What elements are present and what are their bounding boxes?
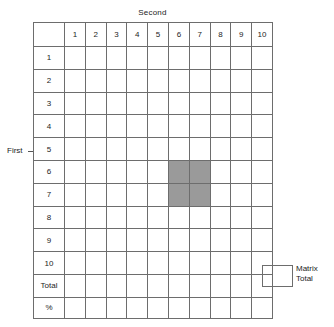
matrix-cell[interactable] xyxy=(168,69,189,92)
matrix-cell[interactable] xyxy=(148,69,169,92)
matrix-cell[interactable] xyxy=(65,297,86,318)
matrix-cell[interactable] xyxy=(210,297,231,318)
matrix-cell[interactable] xyxy=(252,206,273,229)
matrix-cell[interactable] xyxy=(252,47,273,70)
matrix-cell[interactable] xyxy=(210,160,231,183)
matrix-cell[interactable] xyxy=(168,297,189,318)
matrix-cell[interactable] xyxy=(85,160,106,183)
matrix-cell[interactable] xyxy=(127,229,148,252)
matrix-cell[interactable] xyxy=(210,69,231,92)
matrix-cell[interactable] xyxy=(210,115,231,138)
matrix-cell[interactable] xyxy=(127,183,148,206)
matrix-cell[interactable] xyxy=(252,229,273,252)
matrix-cell[interactable] xyxy=(85,47,106,70)
matrix-cell[interactable] xyxy=(231,183,252,206)
matrix-cell[interactable] xyxy=(85,297,106,318)
matrix-cell[interactable] xyxy=(231,274,252,297)
matrix-cell[interactable] xyxy=(65,160,86,183)
matrix-cell[interactable] xyxy=(148,297,169,318)
matrix-cell[interactable] xyxy=(231,69,252,92)
matrix-cell[interactable] xyxy=(231,160,252,183)
matrix-cell[interactable] xyxy=(189,252,210,275)
matrix-cell[interactable] xyxy=(85,274,106,297)
matrix-cell[interactable] xyxy=(148,160,169,183)
matrix-cell[interactable] xyxy=(65,206,86,229)
matrix-cell[interactable] xyxy=(168,115,189,138)
matrix-cell[interactable] xyxy=(65,92,86,115)
matrix-cell[interactable] xyxy=(127,274,148,297)
matrix-cell[interactable] xyxy=(189,92,210,115)
matrix-cell[interactable] xyxy=(106,229,127,252)
matrix-cell[interactable] xyxy=(231,115,252,138)
matrix-cell[interactable] xyxy=(148,138,169,161)
matrix-cell[interactable] xyxy=(106,115,127,138)
matrix-cell[interactable] xyxy=(106,92,127,115)
matrix-cell[interactable] xyxy=(168,252,189,275)
matrix-cell[interactable] xyxy=(189,138,210,161)
matrix-cell[interactable] xyxy=(231,92,252,115)
matrix-cell-shaded[interactable] xyxy=(168,160,189,183)
matrix-cell[interactable] xyxy=(106,297,127,318)
matrix-cell[interactable] xyxy=(148,274,169,297)
matrix-cell[interactable] xyxy=(65,183,86,206)
matrix-cell[interactable] xyxy=(106,206,127,229)
matrix-cell[interactable] xyxy=(127,138,148,161)
matrix-cell[interactable] xyxy=(65,69,86,92)
matrix-cell[interactable] xyxy=(252,160,273,183)
matrix-cell[interactable] xyxy=(252,69,273,92)
matrix-cell[interactable] xyxy=(231,138,252,161)
matrix-cell[interactable] xyxy=(189,206,210,229)
matrix-cell[interactable] xyxy=(148,115,169,138)
matrix-cell[interactable] xyxy=(252,297,273,318)
matrix-cell[interactable] xyxy=(252,183,273,206)
matrix-cell[interactable] xyxy=(189,47,210,70)
matrix-cell[interactable] xyxy=(127,92,148,115)
matrix-cell[interactable] xyxy=(189,274,210,297)
matrix-cell[interactable] xyxy=(85,229,106,252)
matrix-total-box[interactable] xyxy=(262,265,293,287)
matrix-cell[interactable] xyxy=(210,229,231,252)
matrix-cell-shaded[interactable] xyxy=(168,183,189,206)
matrix-cell[interactable] xyxy=(148,229,169,252)
matrix-cell[interactable] xyxy=(106,252,127,275)
matrix-cell[interactable] xyxy=(85,115,106,138)
matrix-cell[interactable] xyxy=(148,252,169,275)
matrix-cell[interactable] xyxy=(85,183,106,206)
matrix-cell[interactable] xyxy=(65,274,86,297)
matrix-cell[interactable] xyxy=(148,92,169,115)
matrix-cell[interactable] xyxy=(148,206,169,229)
matrix-cell-shaded[interactable] xyxy=(189,183,210,206)
matrix-cell[interactable] xyxy=(231,252,252,275)
matrix-cell[interactable] xyxy=(210,138,231,161)
matrix-cell[interactable] xyxy=(210,92,231,115)
matrix-cell[interactable] xyxy=(210,183,231,206)
matrix-cell[interactable] xyxy=(189,115,210,138)
matrix-cell[interactable] xyxy=(252,138,273,161)
matrix-cell[interactable] xyxy=(189,297,210,318)
matrix-cell[interactable] xyxy=(148,47,169,70)
matrix-cell[interactable] xyxy=(65,47,86,70)
matrix-cell[interactable] xyxy=(168,138,189,161)
matrix-cell[interactable] xyxy=(231,47,252,70)
matrix-cell[interactable] xyxy=(127,115,148,138)
matrix-cell[interactable] xyxy=(106,138,127,161)
matrix-cell[interactable] xyxy=(168,274,189,297)
matrix-cell[interactable] xyxy=(168,229,189,252)
matrix-cell[interactable] xyxy=(65,252,86,275)
matrix-cell[interactable] xyxy=(85,69,106,92)
matrix-cell[interactable] xyxy=(65,115,86,138)
matrix-cell[interactable] xyxy=(106,47,127,70)
matrix-cell[interactable] xyxy=(210,206,231,229)
matrix-cell[interactable] xyxy=(168,92,189,115)
matrix-cell[interactable] xyxy=(85,138,106,161)
matrix-cell[interactable] xyxy=(127,206,148,229)
matrix-cell[interactable] xyxy=(168,47,189,70)
matrix-cell[interactable] xyxy=(189,229,210,252)
matrix-cell[interactable] xyxy=(252,115,273,138)
matrix-cell[interactable] xyxy=(85,206,106,229)
matrix-cell[interactable] xyxy=(231,297,252,318)
matrix-cell[interactable] xyxy=(127,69,148,92)
matrix-cell[interactable] xyxy=(127,252,148,275)
matrix-cell[interactable] xyxy=(106,183,127,206)
matrix-cell[interactable] xyxy=(252,92,273,115)
